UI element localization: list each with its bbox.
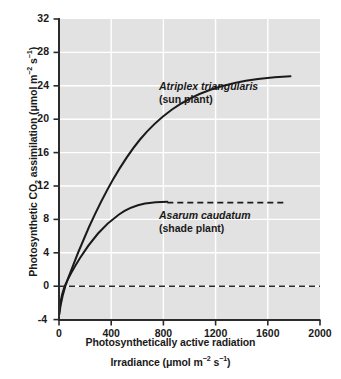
annotation-atriplex: Atriplex triangularis (sun plant) [159,80,258,105]
plot-background [59,19,320,320]
annotation-atriplex-common: (sun plant) [159,93,258,106]
y-tick-label-0: 0 [23,279,49,291]
chart-figure: Photosynthetic CO2 assimilation (μmol m−… [0,0,341,379]
y-tick-label-28: 28 [23,45,49,57]
y-tick-label-12: 12 [23,179,49,191]
y-tick-label-20: 20 [23,112,49,124]
x-axis-label-line1: Photosynthetically active radiation [0,336,341,348]
x-axis-label-line2: Irradiance (μmol m−2 s−1) [0,355,341,368]
y-tick-label-minus4: -4 [21,313,47,325]
annotation-asarum: Asarum caudatum (shade plant) [159,209,251,234]
y-tick-label-24: 24 [23,79,49,91]
annotation-asarum-common: (shade plant) [159,222,251,235]
y-tick-label-8: 8 [23,212,49,224]
plot-canvas [0,0,341,379]
y-tick-label-4: 4 [23,246,49,258]
annotation-asarum-species: Asarum caudatum [159,209,251,222]
y-tick-label-32: 32 [23,12,49,24]
annotation-atriplex-species: Atriplex triangularis [159,80,258,93]
y-tick-label-16: 16 [23,146,49,158]
